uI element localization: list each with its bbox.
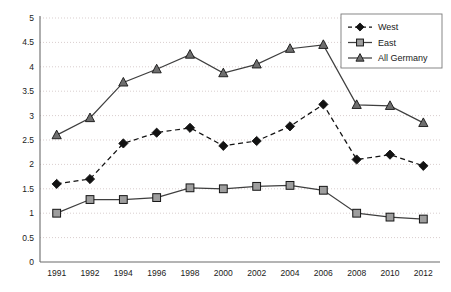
- legend-label-all-germany: All Germany: [378, 53, 428, 63]
- x-tick-label: 2002: [247, 268, 266, 278]
- chart-canvas: 00.511.522.533.544.55 199119921994199619…: [0, 0, 451, 292]
- data-point-marker: [153, 194, 161, 202]
- series-east: [53, 181, 427, 222]
- y-tick-label: 4.5: [22, 37, 34, 47]
- x-axis-tick-labels: 1991199219941996199820002002200420062008…: [47, 268, 433, 278]
- x-tick-label: 2006: [314, 268, 333, 278]
- data-point-marker: [352, 155, 361, 164]
- data-point-marker: [353, 209, 361, 217]
- y-tick-label: 2.5: [22, 135, 34, 145]
- data-point-marker: [319, 186, 327, 194]
- y-tick-label: 1: [29, 208, 34, 218]
- x-tick-label: 2010: [381, 268, 400, 278]
- data-point-marker: [319, 40, 328, 49]
- data-point-marker: [385, 150, 394, 159]
- data-point-marker: [219, 185, 227, 193]
- data-point-marker: [86, 196, 94, 204]
- data-point-marker: [52, 130, 61, 139]
- data-point-marker: [185, 50, 194, 59]
- y-tick-label: 2: [29, 159, 34, 169]
- data-point-marker: [419, 215, 427, 223]
- y-tick-label: 5: [29, 13, 34, 23]
- data-point-marker: [252, 136, 261, 145]
- x-tick-label: 1996: [147, 268, 166, 278]
- y-tick-label: 4: [29, 62, 34, 72]
- data-point-marker: [119, 196, 127, 204]
- x-tick-label: 1994: [114, 268, 133, 278]
- series-line: [57, 104, 424, 184]
- y-axis-tick-labels: 00.511.522.533.544.55: [22, 13, 34, 267]
- x-tick-label: 2004: [281, 268, 300, 278]
- y-tick-label: 1.5: [22, 184, 34, 194]
- data-point-marker: [52, 179, 61, 188]
- legend-label-west: West: [378, 22, 399, 32]
- data-point-marker: [286, 181, 294, 189]
- x-tick-label: 1991: [47, 268, 66, 278]
- x-tick-label: 2000: [214, 268, 233, 278]
- data-point-marker: [419, 161, 428, 170]
- data-point-marker: [319, 100, 328, 109]
- y-tick-label: 3: [29, 111, 34, 121]
- data-point-marker: [152, 64, 161, 73]
- x-tick-label: 2008: [347, 268, 366, 278]
- data-point-marker: [285, 122, 294, 131]
- legend-marker-east: [357, 39, 364, 46]
- chart-legend: WestEastAll Germany: [341, 14, 442, 68]
- y-tick-label: 0: [29, 257, 34, 267]
- series-line: [57, 185, 424, 219]
- data-point-marker: [152, 128, 161, 137]
- data-point-marker: [352, 100, 361, 109]
- x-tick-label: 2012: [414, 268, 433, 278]
- y-tick-label: 0.5: [22, 233, 34, 243]
- data-point-marker: [219, 141, 228, 150]
- data-point-marker: [386, 213, 394, 221]
- data-point-marker: [185, 123, 194, 132]
- y-tick-label: 3.5: [22, 86, 34, 96]
- x-tick-label: 1992: [81, 268, 100, 278]
- data-point-marker: [186, 184, 194, 192]
- x-tick-label: 1998: [181, 268, 200, 278]
- data-point-marker: [253, 182, 261, 190]
- data-point-marker: [53, 209, 61, 217]
- data-point-marker: [419, 118, 428, 127]
- data-point-marker: [252, 59, 261, 68]
- series-west: [52, 100, 428, 189]
- line-chart: 00.511.522.533.544.55 199119921994199619…: [0, 0, 451, 292]
- legend-label-east: East: [378, 38, 397, 48]
